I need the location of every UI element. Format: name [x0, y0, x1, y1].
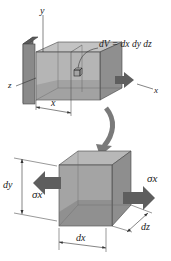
dz-label: dz: [141, 221, 150, 232]
y-axis-label: y: [39, 5, 45, 16]
beam-diagram: y z x dV = dx dy dz x: [7, 5, 158, 116]
x-axis: [137, 84, 153, 89]
left-stress-label: σx: [32, 188, 42, 200]
dy-label: dy: [3, 179, 13, 190]
zoom-in-arrow: [96, 108, 113, 156]
z-axis-label: z: [7, 80, 12, 90]
right-stress-label: σx: [147, 172, 157, 184]
position-label: x: [50, 97, 56, 108]
dx-label: dx: [76, 232, 86, 243]
differential-cube: [59, 151, 131, 226]
stress-cube-diagram: dy dx dz σx σx: [3, 151, 157, 252]
stress-element-diagram: y z x dV = dx dy dz x: [0, 0, 171, 261]
volume-element-label: dV = dx dy dz: [99, 39, 152, 49]
x-axis-label: x: [153, 85, 158, 95]
